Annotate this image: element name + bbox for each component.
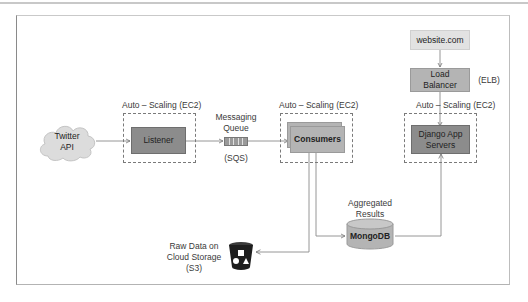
django-node: Django App Servers — [411, 125, 470, 154]
queue-title-line1: Messaging — [210, 112, 262, 123]
s3-label-line2: Cloud Storage — [164, 252, 224, 263]
load-balancer-node: Load Balancer — [410, 68, 470, 92]
s3-label-line1: Raw Data on — [164, 241, 224, 252]
twitter-api-label-line2: API — [60, 142, 74, 153]
mongodb-title-line1: Aggregated — [340, 198, 400, 209]
queue-icon — [224, 137, 248, 146]
django-line2: Servers — [426, 140, 455, 151]
load-balancer-line1: Load — [431, 69, 450, 80]
s3-label-line3: (S3) — [164, 263, 224, 274]
django-line1: Django App — [419, 129, 463, 140]
s3-bucket-icon — [227, 241, 255, 271]
load-balancer-service-label: (ELB) — [474, 75, 504, 86]
twitter-api-label-line1: Twitter — [54, 131, 79, 142]
django-autoscaling-label: Auto – Scaling (EC2) — [416, 100, 492, 111]
mongodb-title: Aggregated Results — [340, 198, 400, 220]
consumers-autoscaling-label: Auto – Scaling (EC2) — [279, 100, 355, 111]
mongodb-node: MongoDB — [346, 218, 394, 250]
queue-title: Messaging Queue — [210, 112, 262, 134]
load-balancer-line2: Balancer — [423, 80, 457, 91]
listener-node: Listener — [131, 127, 186, 154]
queue-title-line2: Queue — [210, 123, 262, 134]
queue-service-label: (SQS) — [216, 153, 256, 164]
mongodb-label: MongoDB — [346, 228, 394, 244]
s3-label: Raw Data on Cloud Storage (S3) — [164, 241, 224, 274]
website-node: website.com — [410, 30, 470, 50]
consumers-node: Consumers — [290, 126, 345, 153]
twitter-api-node: Twitter API — [36, 120, 98, 164]
listener-autoscaling-label: Auto – Scaling (EC2) — [122, 100, 198, 111]
